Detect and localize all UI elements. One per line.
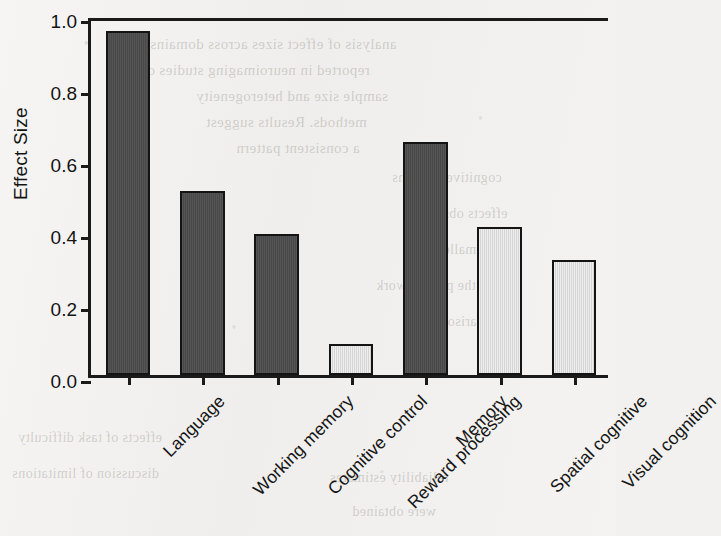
y-axis-tick xyxy=(81,21,91,24)
x-axis-tick xyxy=(500,375,503,385)
bar xyxy=(477,227,522,375)
y-axis-tick xyxy=(81,93,91,96)
bar xyxy=(329,344,374,375)
x-axis-tick xyxy=(425,375,428,385)
x-axis-tick xyxy=(202,375,205,385)
bar xyxy=(552,260,597,375)
y-axis-tick xyxy=(81,165,91,168)
y-axis-tick xyxy=(81,237,91,240)
bar xyxy=(106,31,151,375)
y-axis-tick-label: 0.8 xyxy=(51,84,77,103)
x-axis-tick-label: Language xyxy=(159,391,229,461)
x-axis-tick xyxy=(128,375,131,385)
y-axis-tick xyxy=(81,309,91,312)
y-axis-tick-label: 0.4 xyxy=(51,228,77,247)
bar xyxy=(254,234,299,375)
y-axis-tick-label: 0.0 xyxy=(51,372,77,391)
x-axis-tick xyxy=(574,375,577,385)
y-axis-tick-label: 0.6 xyxy=(51,156,77,175)
y-axis-title: Effect Size xyxy=(10,107,32,200)
y-axis-tick xyxy=(81,381,91,384)
y-axis-tick-label: 1.0 xyxy=(51,12,77,31)
bar xyxy=(180,191,225,375)
x-axis-tick xyxy=(351,375,354,385)
x-axis-tick xyxy=(277,375,280,385)
plot-area: 0.00.20.40.60.81.0 LanguageWorking memor… xyxy=(88,18,608,378)
bar xyxy=(403,142,448,375)
y-axis-tick-label: 0.2 xyxy=(51,300,77,319)
